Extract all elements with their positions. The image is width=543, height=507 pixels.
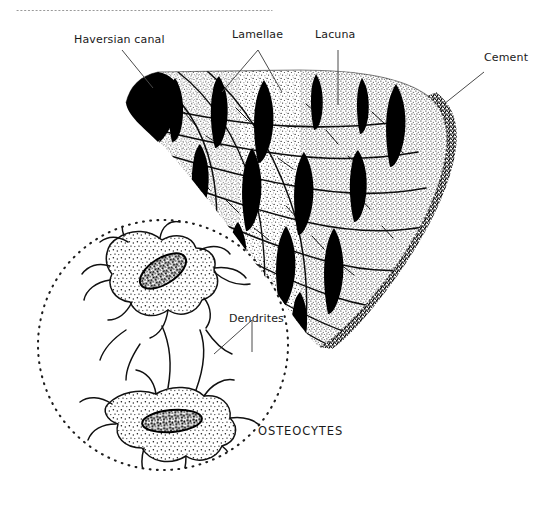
label-cement: Cement <box>484 52 528 64</box>
label-dendrites: Dendrites <box>229 313 284 325</box>
label-haversian-canal: Haversian canal <box>74 34 165 46</box>
label-lacuna: Lacuna <box>315 29 356 41</box>
label-lamellae: Lamellae <box>232 29 283 41</box>
label-osteocytes: OSTEOCYTES <box>258 425 343 437</box>
